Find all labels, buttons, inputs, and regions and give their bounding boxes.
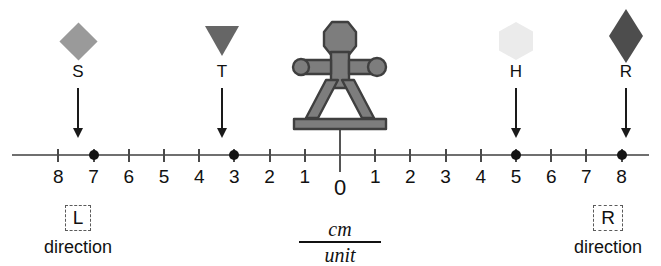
axis-tick-label-pos5: 5 [501, 166, 531, 188]
left-direction-group: L direction [3, 205, 153, 257]
number-line-axis [12, 154, 649, 156]
rhombus-icon [596, 8, 656, 64]
marker-t[interactable]: T [192, 18, 252, 81]
point-dot-r [617, 150, 627, 160]
axis-tick-label-neg7: 7 [79, 166, 109, 188]
marker-r[interactable]: R [596, 8, 656, 81]
axis-tick-label-neg4: 4 [184, 166, 214, 188]
right-direction-group: R direction [533, 205, 661, 257]
axis-tick-label-pos1: 1 [360, 166, 390, 188]
hexagon-icon [486, 18, 546, 64]
stick-figure-person [288, 18, 392, 136]
right-direction-word: direction [533, 237, 661, 257]
unit-denominator: unit [280, 244, 400, 266]
point-dot-h [511, 150, 521, 160]
axis-tick-label-neg5: 5 [149, 166, 179, 188]
axis-tick-label-pos3: 3 [431, 166, 461, 188]
unit-fraction: cm unit [280, 218, 400, 266]
axis-tick-label-neg6: 6 [114, 166, 144, 188]
axis-tick-pos6 [550, 149, 552, 162]
axis-tick-pos4 [480, 149, 482, 162]
axis-tick-label-pos6: 6 [536, 166, 566, 188]
axis-tick-pos3 [445, 149, 447, 162]
axis-tick-label-pos8: 8 [607, 166, 637, 188]
axis-tick-label-pos2: 2 [395, 166, 425, 188]
marker-h-label: H [486, 63, 546, 81]
marker-r-arrow-head [621, 128, 631, 138]
axis-tick-neg6 [128, 149, 130, 162]
right-direction-box[interactable]: R [593, 205, 623, 231]
zero-label: 0 [320, 175, 360, 201]
marker-t-label: T [192, 63, 252, 81]
left-direction-box[interactable]: L [65, 205, 92, 231]
marker-s-arrow-head [73, 128, 83, 138]
axis-tick-pos2 [409, 149, 411, 162]
axis-tick-neg2 [269, 149, 271, 162]
axis-tick-pos1 [374, 149, 376, 162]
marker-s[interactable]: S [48, 18, 108, 81]
left-direction-word: direction [3, 237, 153, 257]
axis-tick-label-neg2: 2 [255, 166, 285, 188]
axis-tick-label-neg3: 3 [219, 166, 249, 188]
unit-numerator: cm [280, 218, 400, 240]
axis-tick-neg8 [57, 149, 59, 162]
number-line-diagram: 8765432112345678 S T H R [0, 0, 661, 266]
marker-t-arrow-head [217, 128, 227, 138]
diamond-icon [48, 18, 108, 64]
point-dot-t [229, 150, 239, 160]
point-dot-s [89, 150, 99, 160]
marker-r-label: R [596, 63, 656, 81]
fraction-bar [299, 241, 381, 243]
axis-tick-pos7 [585, 149, 587, 162]
axis-tick-label-pos7: 7 [571, 166, 601, 188]
triangle-down-icon [192, 18, 252, 64]
axis-tick-zero0 [339, 130, 341, 172]
marker-s-label: S [48, 63, 108, 81]
axis-tick-neg5 [163, 149, 165, 162]
axis-tick-label-neg1: 1 [290, 166, 320, 188]
axis-tick-neg4 [198, 149, 200, 162]
marker-h[interactable]: H [486, 18, 546, 81]
axis-tick-label-neg8: 8 [43, 166, 73, 188]
axis-tick-label-pos4: 4 [466, 166, 496, 188]
marker-h-arrow-head [511, 128, 521, 138]
axis-tick-neg1 [304, 149, 306, 162]
